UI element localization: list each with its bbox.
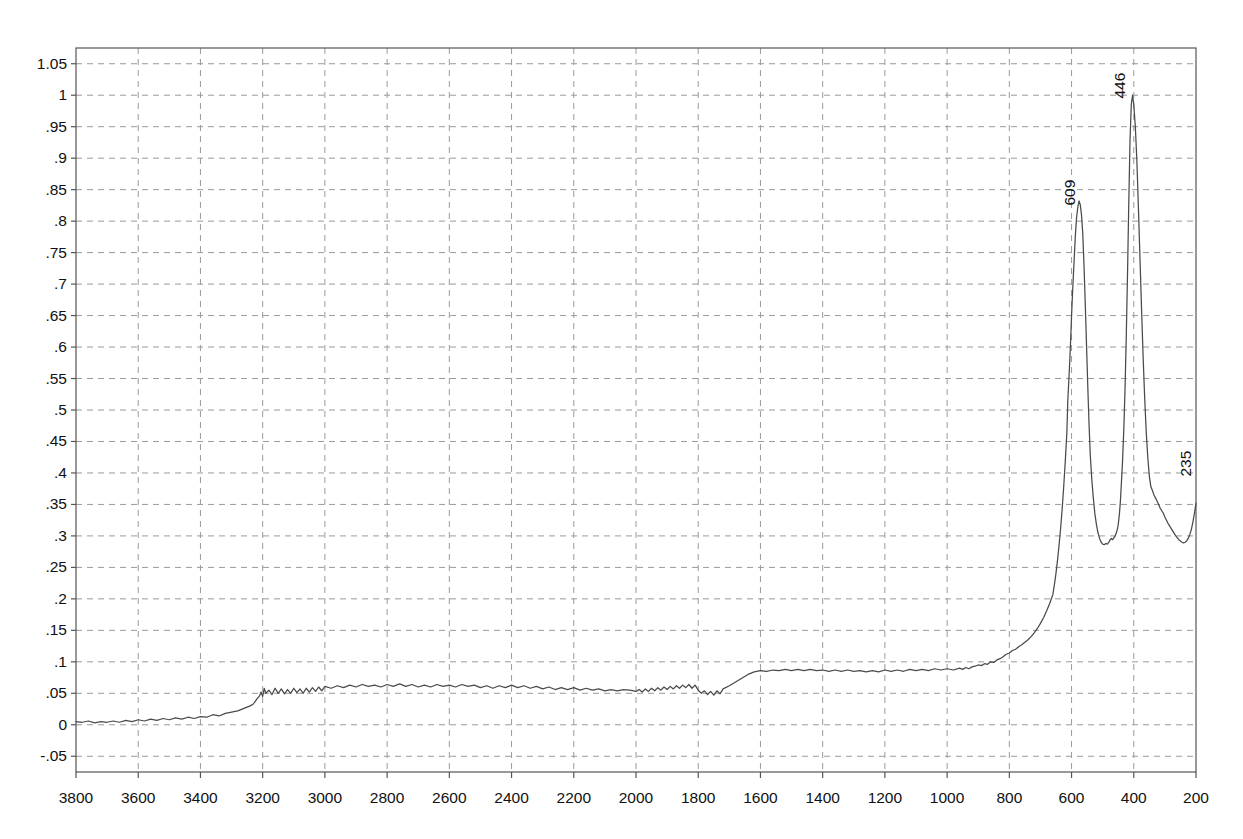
plot-canvas bbox=[0, 0, 1243, 839]
y-tick-label: .8 bbox=[54, 213, 67, 229]
y-tick-label: .55 bbox=[45, 371, 67, 387]
spectrum-chart: 1.051.95.9.85.8.75.7.65.6.55.5.45.4.35.3… bbox=[0, 0, 1243, 839]
y-tick-label: .1 bbox=[54, 654, 67, 670]
y-tick-label: .6 bbox=[54, 339, 67, 355]
gridlines bbox=[76, 48, 1196, 772]
y-tick-label: .85 bbox=[45, 182, 67, 198]
y-tick-label: .35 bbox=[45, 496, 67, 512]
x-tick-label: 200 bbox=[1156, 790, 1236, 806]
y-tick-label: .15 bbox=[45, 622, 67, 638]
y-tick-label: .25 bbox=[45, 559, 67, 575]
y-tick-label: .2 bbox=[54, 591, 67, 607]
y-tick-label: .65 bbox=[45, 308, 67, 324]
y-tick-label: 1 bbox=[58, 87, 67, 103]
y-tick-label: .4 bbox=[54, 465, 67, 481]
y-tick-label: .75 bbox=[45, 245, 67, 261]
y-tick-label: .3 bbox=[54, 528, 67, 544]
y-tick-label: .95 bbox=[45, 119, 67, 135]
y-tick-label: .05 bbox=[45, 685, 67, 701]
peak-label-235: 235 bbox=[1178, 451, 1194, 477]
y-tick-label: .5 bbox=[54, 402, 67, 418]
y-tick-label: .45 bbox=[45, 433, 67, 449]
y-tick-label: .9 bbox=[54, 150, 67, 166]
y-tick-label: -.05 bbox=[40, 748, 67, 764]
axis-ticks bbox=[71, 64, 1196, 778]
peak-label-446: 446 bbox=[1112, 73, 1128, 99]
peak-label-609: 609 bbox=[1061, 180, 1077, 206]
y-tick-label: 0 bbox=[58, 717, 67, 733]
y-tick-label: 1.05 bbox=[37, 56, 67, 72]
y-tick-label: .7 bbox=[54, 276, 67, 292]
